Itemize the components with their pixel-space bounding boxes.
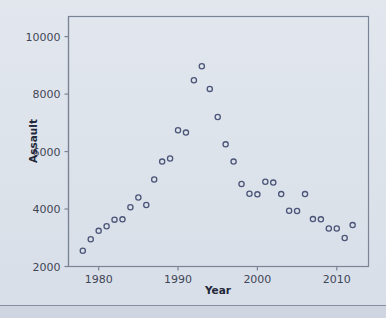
plot-frame (69, 17, 369, 267)
x-axis-title: Year (204, 284, 232, 296)
y-tick-label: 2000 (33, 261, 61, 274)
x-tick-label: 2000 (243, 273, 271, 286)
x-tick-label: 1990 (164, 273, 192, 286)
x-tick-label: 1980 (85, 273, 113, 286)
data-point (310, 216, 315, 221)
data-point (294, 208, 299, 213)
data-point (88, 237, 93, 242)
data-point (271, 180, 276, 185)
y-tick-label: 10000 (26, 31, 61, 44)
data-point (128, 205, 133, 210)
chart-figure: 200040006000800010000 1980199020002010 A… (0, 0, 386, 318)
data-point (350, 223, 355, 228)
data-point (160, 159, 165, 164)
data-point (191, 78, 196, 83)
x-tick-label: 2010 (323, 273, 351, 286)
data-point (207, 86, 212, 91)
data-point (80, 248, 85, 253)
scatter-plot: 200040006000800010000 1980199020002010 A… (0, 0, 386, 318)
data-point (334, 226, 339, 231)
data-point (247, 191, 252, 196)
data-point-group (80, 64, 355, 254)
data-point (112, 217, 117, 222)
data-point (104, 224, 109, 229)
data-point (136, 195, 141, 200)
data-point (239, 181, 244, 186)
data-point (175, 128, 180, 133)
y-tick-label: 4000 (33, 203, 61, 216)
y-tick-label: 8000 (33, 88, 61, 101)
data-point (167, 156, 172, 161)
data-point (144, 202, 149, 207)
data-point (255, 192, 260, 197)
data-point (96, 228, 101, 233)
data-point (263, 179, 268, 184)
y-axis-title: Assault (27, 119, 39, 163)
data-point (199, 64, 204, 69)
footer-band (0, 306, 386, 318)
data-point (223, 142, 228, 147)
data-point (326, 226, 331, 231)
data-point (183, 130, 188, 135)
data-point (231, 159, 236, 164)
data-point (342, 235, 347, 240)
data-point (120, 217, 125, 222)
data-point (279, 191, 284, 196)
data-point (302, 191, 307, 196)
footer-divider (0, 305, 386, 306)
data-point (152, 177, 157, 182)
data-point (287, 208, 292, 213)
data-point (318, 217, 323, 222)
data-point (215, 114, 220, 119)
